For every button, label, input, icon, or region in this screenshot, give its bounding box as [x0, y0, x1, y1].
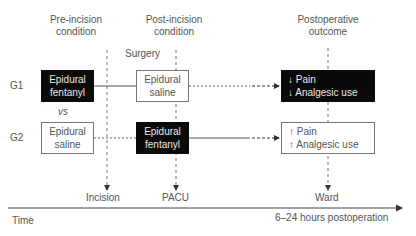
g1-pre-line2: fentanyl — [50, 86, 85, 99]
g1-post-box: Epidural saline — [136, 70, 189, 102]
group-label-g2: G2 — [10, 132, 23, 143]
surgery-label: Surgery — [125, 48, 160, 59]
group-label-g1: G1 — [10, 80, 23, 91]
g2-post-box: Epidural fentanyl — [136, 122, 189, 154]
g2-outcome-line2: ↑ Analgesic use — [289, 138, 359, 151]
timepoint-incision: Incision — [86, 192, 120, 203]
header-post-incision-line2: condition — [124, 26, 224, 38]
g2-pre-line2: saline — [54, 138, 80, 151]
timepoint-pacu: PACU — [162, 192, 189, 203]
header-post-incision-line1: Post-incision — [124, 14, 224, 26]
g2-post-line2: fentanyl — [145, 138, 180, 151]
timepoint-ward: Ward — [315, 192, 339, 203]
g2-outcome-line1: ↑ Pain — [289, 125, 317, 138]
header-pre-incision-line2: condition — [36, 26, 116, 38]
vs-label: vs — [58, 106, 68, 117]
g1-pre-box: Epidural fentanyl — [41, 70, 94, 102]
g2-pre-box: Epidural saline — [41, 122, 94, 154]
g2-outcome-box: ↑ Pain ↑ Analgesic use — [281, 122, 375, 154]
header-outcome: Postoperative outcome — [278, 14, 378, 38]
header-post-incision: Post-incision condition — [124, 14, 224, 38]
g1-post-line2: saline — [149, 86, 175, 99]
g1-outcome-line2: ↓ Analgesic use — [288, 86, 358, 99]
header-outcome-line2: outcome — [278, 26, 378, 38]
time-axis-label: Time — [12, 215, 34, 226]
header-pre-incision-line1: Pre-incision — [36, 14, 116, 26]
g1-pre-line1: Epidural — [49, 73, 86, 86]
g1-post-line1: Epidural — [144, 73, 181, 86]
header-outcome-line1: Postoperative — [278, 14, 378, 26]
g2-post-line1: Epidural — [144, 125, 181, 138]
g2-pre-line1: Epidural — [49, 125, 86, 138]
time-axis-end-label: 6–24 hours postoperation — [275, 212, 388, 223]
g1-outcome-line1: ↓ Pain — [288, 73, 316, 86]
g1-outcome-box: ↓ Pain ↓ Analgesic use — [281, 70, 375, 102]
header-pre-incision: Pre-incision condition — [36, 14, 116, 38]
